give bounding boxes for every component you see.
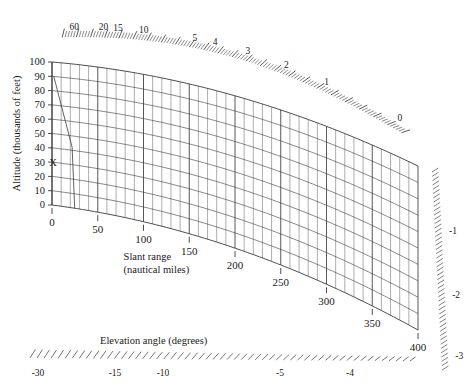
- elevation-label-20: 20: [99, 22, 109, 32]
- elevation-tick-positive: [283, 70, 288, 74]
- elevation-tick-bottom: [241, 354, 247, 360]
- elevation-tick-positive: [223, 50, 227, 55]
- elevation-tick-bottom: [396, 357, 402, 361]
- elevation-tick-right: [442, 362, 448, 366]
- elevation-tick-positive: [379, 117, 385, 120]
- elevation-tick-bottom: [79, 351, 84, 359]
- elevation-tick-bottom: [143, 352, 149, 359]
- elevation-tick-positive: [238, 54, 242, 59]
- elevation-tick-bottom: [389, 356, 395, 360]
- elevation-label-neg5: -5: [276, 368, 284, 378]
- elevation-tick-positive: [150, 35, 153, 41]
- altitude-tick-label-70: 70: [35, 99, 46, 110]
- range-tick-label-300: 300: [318, 295, 335, 307]
- elevation-tick-positive: [107, 32, 109, 38]
- range-tick-label-350: 350: [364, 317, 381, 329]
- elevation-tick-right: [436, 254, 442, 258]
- elevation-tick-right: [437, 271, 443, 275]
- nomogram-chart: 0102030405060708090100Altitude (thousand…: [0, 0, 476, 388]
- elevation-tick-right: [439, 301, 445, 305]
- altitude-tick-label-100: 100: [29, 56, 45, 67]
- elevation-tick-positive: [164, 37, 167, 43]
- elevation-tick-bottom: [136, 352, 142, 359]
- range-tick-label-400: 400: [410, 341, 427, 353]
- elevation-tick-positive: [368, 111, 374, 114]
- elevation-label-neg4: -4: [346, 368, 354, 378]
- elevation-tick-right: [440, 319, 446, 323]
- elevation-tick-right: [432, 168, 438, 172]
- elevation-tick-positive: [385, 121, 391, 123]
- elevation-tick-positive: [303, 77, 310, 82]
- elevation-tick-positive: [325, 89, 331, 92]
- elevation-tick-bottom: [297, 355, 303, 360]
- elevation-tick-bottom: [319, 355, 325, 360]
- elevation-tick-positive: [240, 55, 245, 60]
- range-tick-label-150: 150: [181, 245, 198, 257]
- elevation-tick-positive: [294, 75, 299, 79]
- elevation-tick-positive: [353, 103, 359, 106]
- elevation-tick-bottom: [44, 350, 49, 358]
- elevation-tick-right: [434, 211, 440, 215]
- elevation-tick-positive: [339, 96, 345, 99]
- altitude-tick-label-60: 60: [35, 114, 46, 125]
- elevation-tick-positive: [198, 43, 202, 48]
- elevation-tick-bottom: [276, 354, 282, 360]
- elevation-tick-positive: [334, 93, 340, 96]
- range-tick-label-100: 100: [135, 233, 152, 245]
- elevation-tick-bottom: [304, 355, 310, 360]
- elevation-tick-bottom: [403, 357, 409, 361]
- elevation-tick-bottom: [72, 350, 77, 358]
- elevation-tick-bottom: [368, 356, 374, 361]
- range-axis-sublabel: (nautical miles): [124, 264, 190, 276]
- altitude-tick-label-90: 90: [35, 71, 46, 82]
- elevation-tick-positive: [88, 31, 90, 37]
- elevation-tick-positive: [342, 97, 348, 100]
- elevation-tick-bottom: [114, 351, 120, 358]
- elevation-label-2: 2: [284, 60, 289, 70]
- elevation-tick-bottom: [157, 352, 163, 359]
- elevation-label-neg10: -10: [157, 368, 170, 378]
- elevation-tick-right: [434, 202, 440, 206]
- elevation-tick-positive: [178, 40, 182, 45]
- elevation-tick-right: [433, 190, 439, 194]
- elevation-tick-right: [434, 198, 440, 202]
- elevation-label-15: 15: [113, 23, 123, 33]
- elevation-tick-right: [439, 314, 445, 318]
- elevation-tick-right: [438, 289, 444, 293]
- elevation-tick-bottom: [248, 354, 254, 360]
- elevation-tick-positive: [206, 45, 210, 50]
- elevation-tick-right: [438, 280, 444, 284]
- elevation-tick-positive: [300, 77, 305, 81]
- elevation-label-1: 1: [324, 77, 329, 87]
- reference-line: [54, 76, 75, 208]
- elevation-tick-right: [435, 237, 441, 241]
- elevation-tick-bottom: [340, 356, 346, 361]
- elevation-tick-bottom: [107, 351, 113, 359]
- elevation-tick-positive: [122, 32, 125, 38]
- elevation-tick-positive: [390, 124, 396, 126]
- elevation-tick-positive: [65, 31, 67, 37]
- elevation-tick-right: [432, 177, 438, 181]
- elevation-tick-right: [434, 207, 440, 211]
- elevation-tick-right: [436, 250, 442, 254]
- elevation-tick-right: [438, 293, 444, 297]
- elevation-tick-right: [437, 276, 443, 280]
- elevation-tick-positive: [370, 113, 376, 116]
- elevation-axis-label: Elevation angle (degrees): [100, 335, 208, 347]
- elevation-tick-bottom: [354, 356, 360, 361]
- elevation-tick-positive: [382, 119, 388, 121]
- elevation-tick-right: [436, 246, 442, 250]
- elevation-tick-right: [441, 340, 447, 344]
- elevation-tick-positive: [322, 87, 328, 90]
- elevation-tick-positive: [181, 40, 185, 45]
- elevation-tick-right: [437, 258, 443, 262]
- elevation-tick-positive: [192, 42, 196, 47]
- elevation-tick-right: [435, 220, 441, 224]
- elevation-label-neg30: -30: [32, 368, 45, 378]
- elevation-tick-right: [437, 267, 443, 271]
- elevation-tick-bottom: [262, 354, 268, 360]
- elevation-tick-positive: [362, 108, 368, 111]
- elevation-tick-positive: [79, 31, 81, 37]
- elevation-label-neg15: -15: [109, 368, 122, 378]
- elevation-tick-right: [433, 181, 439, 185]
